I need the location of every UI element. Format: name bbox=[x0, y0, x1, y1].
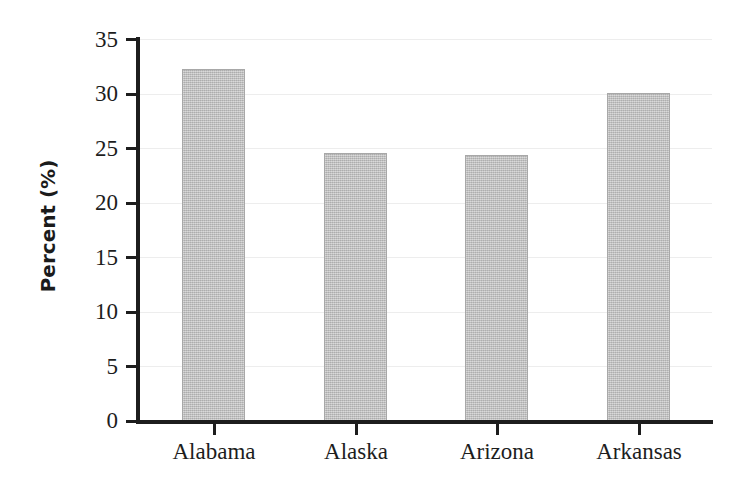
bar-alaska[interactable] bbox=[324, 153, 387, 422]
y-tick-20 bbox=[126, 202, 138, 205]
y-tick-label: 35 bbox=[70, 28, 118, 51]
y-tick-label: 10 bbox=[70, 300, 118, 323]
gridline bbox=[139, 39, 712, 40]
y-tick-5 bbox=[126, 365, 138, 368]
y-tick-label: 0 bbox=[70, 409, 118, 432]
y-tick-label: 30 bbox=[70, 82, 118, 105]
y-tick-0 bbox=[126, 420, 138, 423]
y-tick-30 bbox=[126, 93, 138, 96]
y-tick-25 bbox=[126, 147, 138, 150]
x-tick-arizona bbox=[496, 423, 499, 435]
plot-area bbox=[139, 39, 712, 421]
y-tick-label: 15 bbox=[70, 246, 118, 269]
x-tick-label-arizona: Arizona bbox=[417, 440, 577, 464]
y-tick-label: 20 bbox=[70, 191, 118, 214]
x-tick-label-alaska: Alaska bbox=[276, 440, 436, 464]
bar-chart: Percent (%) 0 5 10 15 20 25 bbox=[0, 0, 747, 488]
y-axis-title: Percent (%) bbox=[36, 136, 60, 316]
y-tick-10 bbox=[126, 311, 138, 314]
x-tick-arkansas bbox=[638, 423, 641, 435]
x-axis-line bbox=[136, 420, 713, 424]
x-tick-label-arkansas: Arkansas bbox=[559, 440, 719, 464]
bar-arkansas[interactable] bbox=[607, 93, 670, 422]
bar-arizona[interactable] bbox=[465, 155, 528, 421]
y-tick-label: 25 bbox=[70, 137, 118, 160]
x-tick-alabama bbox=[213, 423, 216, 435]
bar-alabama[interactable] bbox=[182, 69, 245, 422]
y-tick-label: 5 bbox=[70, 355, 118, 378]
y-tick-15 bbox=[126, 256, 138, 259]
y-tick-35 bbox=[126, 38, 138, 41]
x-tick-alaska bbox=[355, 423, 358, 435]
x-tick-label-alabama: Alabama bbox=[134, 440, 294, 464]
